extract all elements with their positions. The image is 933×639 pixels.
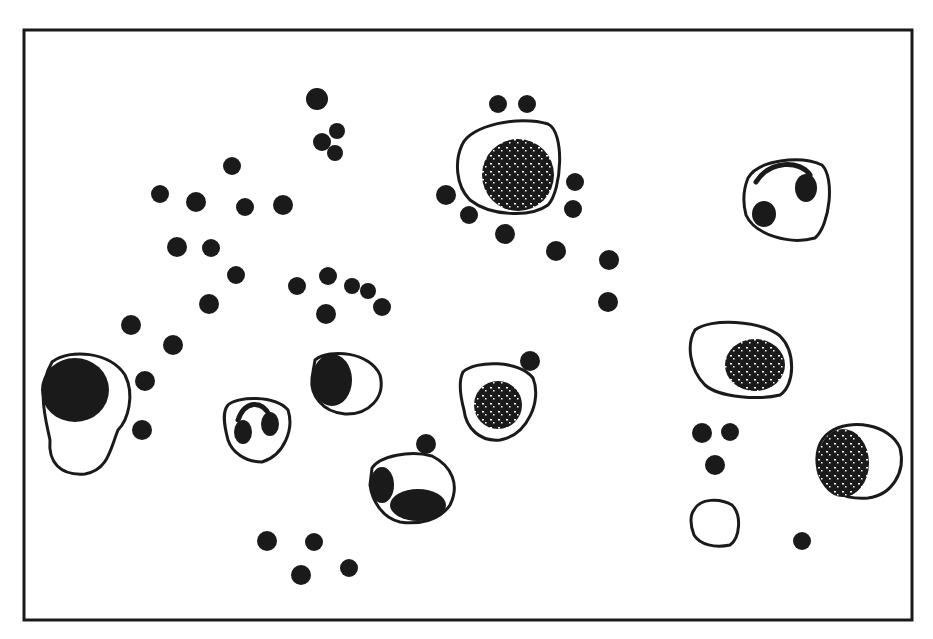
- red-blood-cell: [167, 237, 187, 257]
- frame-border: [24, 30, 912, 620]
- large-cell-left: [41, 354, 130, 474]
- nucleus: [41, 358, 109, 422]
- nucleus-patch: [370, 467, 394, 503]
- irregular-cell-bottom-center: [370, 454, 454, 523]
- crescent-cell-center: [312, 353, 381, 414]
- red-blood-cell: [227, 266, 245, 284]
- red-blood-cell: [135, 371, 155, 391]
- red-blood-cell: [319, 267, 337, 285]
- cell-membrane: [691, 500, 739, 546]
- red-blood-cell: [436, 185, 456, 205]
- red-blood-cell: [599, 250, 619, 270]
- red-blood-cell: [327, 145, 343, 161]
- red-blood-cell: [489, 95, 507, 113]
- red-blood-cell: [316, 304, 336, 324]
- nucleus: [482, 139, 554, 211]
- red-blood-cell: [520, 351, 540, 371]
- nucleus: [817, 429, 869, 497]
- blood-smear-illustration: [0, 0, 933, 639]
- red-blood-cell: [344, 278, 360, 294]
- figure-canvas: [0, 0, 933, 639]
- red-blood-cell: [132, 420, 152, 440]
- red-blood-cell: [273, 195, 293, 215]
- nucleus: [390, 489, 446, 521]
- red-blood-cell: [340, 559, 358, 577]
- red-blood-cell: [306, 88, 328, 110]
- red-blood-cell: [598, 292, 618, 312]
- nucleus: [474, 381, 522, 429]
- red-blood-cell: [329, 123, 345, 139]
- nucleus: [312, 354, 352, 406]
- red-blood-cell: [257, 531, 277, 551]
- red-blood-cell: [495, 224, 515, 244]
- red-blood-cell: [373, 298, 391, 316]
- red-blood-cell: [291, 565, 311, 585]
- round-cell-bottom-right: [817, 425, 901, 499]
- nucleus-lobe: [795, 174, 817, 202]
- ring-cell-top-right: [744, 160, 830, 240]
- red-blood-cell: [121, 315, 141, 335]
- red-blood-cell: [692, 423, 712, 443]
- red-blood-cell: [416, 434, 436, 454]
- figure-frame: [24, 30, 912, 620]
- nucleus-lobe: [261, 412, 279, 436]
- red-blood-cell: [305, 533, 323, 551]
- red-blood-cell: [564, 200, 582, 218]
- cell-membrane: [744, 160, 830, 240]
- red-blood-cell: [223, 157, 241, 175]
- platelet-bottom-right: [691, 500, 739, 546]
- cells-layer: [41, 121, 901, 546]
- red-blood-cell: [360, 283, 376, 299]
- red-blood-cell: [202, 239, 220, 257]
- red-blood-cell: [163, 335, 183, 355]
- red-blood-cell: [313, 133, 331, 151]
- oval-cell-right: [690, 322, 791, 397]
- nucleus-lobe: [234, 420, 252, 444]
- red-blood-cell: [460, 206, 478, 224]
- red-blood-cell: [151, 185, 169, 203]
- large-cell-top-center: [457, 121, 559, 214]
- red-blood-cell: [793, 532, 811, 550]
- cell-membrane: [224, 398, 290, 462]
- red-blood-cell: [518, 95, 536, 113]
- red-blood-cell: [236, 198, 254, 216]
- cell-center-right: [460, 364, 536, 441]
- red-blood-cell: [288, 277, 306, 295]
- red-blood-cell: [546, 241, 566, 261]
- nucleus: [725, 339, 785, 391]
- bilobed-cell: [224, 398, 290, 462]
- red-blood-cell: [566, 173, 584, 191]
- red-blood-cell: [199, 294, 219, 314]
- red-blood-cell: [186, 192, 206, 212]
- red-blood-cell: [721, 423, 739, 441]
- nucleus-lobe: [752, 201, 776, 227]
- red-blood-cell: [705, 455, 725, 475]
